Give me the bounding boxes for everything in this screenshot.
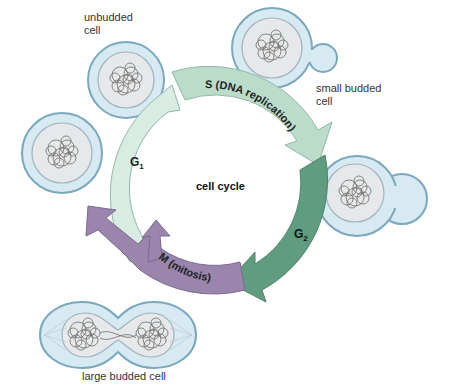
g2-budded-cell (317, 156, 427, 236)
label-line: cell (84, 24, 133, 37)
label-line: unbudded (84, 11, 133, 24)
cell-cycle-diagram: G1 S (DNA replication) G2 M (mitosis) (0, 0, 454, 389)
s-arrow (172, 66, 332, 165)
label-line: large budded cell (82, 370, 166, 383)
m-arrow (86, 206, 245, 294)
phase-label-g1: G1 (130, 155, 144, 171)
small-budded-cell-label: small budded cell (316, 82, 381, 108)
unbudded-cell-label: unbudded cell (84, 11, 133, 37)
cell-cycle-title: cell cycle (196, 180, 245, 192)
label-line: cell (316, 95, 381, 108)
large-budded-cell (40, 302, 196, 368)
label-line: small budded (316, 82, 381, 95)
daughter-cell (22, 113, 102, 193)
large-budded-cell-label: large budded cell (82, 370, 166, 383)
